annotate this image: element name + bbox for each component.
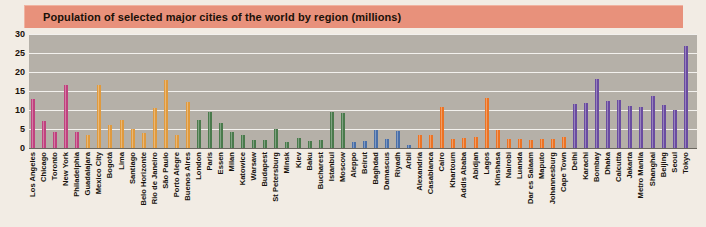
bar[interactable] bbox=[462, 138, 466, 148]
bar[interactable] bbox=[363, 141, 367, 148]
bar[interactable] bbox=[274, 129, 278, 148]
bar-highlight bbox=[220, 123, 221, 148]
bar[interactable] bbox=[474, 137, 478, 148]
x-axis-tick-label: Dhaka bbox=[604, 152, 612, 175]
bar[interactable] bbox=[374, 130, 378, 148]
bar[interactable] bbox=[341, 113, 345, 148]
bar[interactable] bbox=[75, 132, 79, 148]
x-axis-tick: Chicago bbox=[42, 150, 46, 227]
bar[interactable] bbox=[97, 85, 101, 148]
bar[interactable] bbox=[120, 120, 124, 149]
x-axis-tick-label: Cairo bbox=[439, 152, 447, 171]
x-axis-tick-label: New York bbox=[62, 152, 70, 186]
x-axis-tick-label: Mexico City bbox=[96, 152, 104, 194]
x-axis-tick-label: Santiago bbox=[129, 152, 137, 184]
bar[interactable] bbox=[529, 140, 533, 148]
bar[interactable] bbox=[385, 139, 389, 148]
bar[interactable] bbox=[285, 142, 289, 148]
bar[interactable] bbox=[319, 140, 323, 148]
bar[interactable] bbox=[628, 106, 632, 148]
bar[interactable] bbox=[418, 135, 422, 148]
bar[interactable] bbox=[606, 101, 610, 148]
bar[interactable] bbox=[540, 139, 544, 148]
x-axis-tick: Los Angeles bbox=[31, 150, 35, 227]
bar[interactable] bbox=[429, 135, 433, 148]
x-axis-tick-label: Istanbul bbox=[328, 152, 336, 181]
x-axis-tick-label: Damascus bbox=[383, 152, 391, 190]
bar[interactable] bbox=[451, 139, 455, 148]
bar[interactable] bbox=[518, 139, 522, 149]
bar-highlight bbox=[342, 113, 343, 148]
x-axis-tick-label: Khartoum bbox=[450, 152, 458, 188]
bar[interactable] bbox=[407, 145, 411, 148]
bar-highlight bbox=[574, 104, 575, 148]
bar[interactable] bbox=[252, 140, 256, 148]
bar-highlight bbox=[618, 100, 619, 148]
bar[interactable] bbox=[263, 140, 267, 148]
bar-highlight bbox=[552, 139, 553, 148]
bar[interactable] bbox=[86, 135, 90, 148]
y-axis-tick: 0 bbox=[20, 144, 25, 153]
bar-highlight bbox=[298, 138, 299, 148]
x-axis-tick: Shanghai bbox=[651, 150, 655, 227]
bar[interactable] bbox=[662, 105, 666, 148]
bar[interactable] bbox=[440, 107, 444, 148]
bar-highlight bbox=[652, 96, 653, 148]
x-axis-tick-label: Kiev bbox=[295, 152, 303, 168]
x-axis-tick: Alexandria bbox=[418, 150, 422, 227]
bar-highlight bbox=[419, 135, 420, 148]
bar[interactable] bbox=[241, 135, 245, 148]
bar[interactable] bbox=[31, 99, 35, 148]
bar[interactable] bbox=[639, 107, 643, 148]
bar[interactable] bbox=[651, 96, 655, 148]
bar-highlight bbox=[386, 139, 387, 148]
bar[interactable] bbox=[131, 129, 135, 148]
x-axis-tick-label: Katowice bbox=[239, 152, 247, 185]
bar[interactable] bbox=[142, 133, 146, 148]
bar[interactable] bbox=[485, 98, 489, 148]
bar[interactable] bbox=[297, 138, 301, 148]
bar[interactable] bbox=[197, 120, 201, 149]
bar[interactable] bbox=[208, 112, 212, 148]
y-axis-tick: 5 bbox=[20, 125, 25, 134]
bar[interactable] bbox=[108, 125, 112, 148]
bar[interactable] bbox=[507, 139, 511, 148]
bar[interactable] bbox=[396, 131, 400, 148]
x-axis-tick: New York bbox=[64, 150, 68, 227]
bar[interactable] bbox=[42, 121, 46, 148]
bar-highlight bbox=[596, 79, 597, 148]
bar[interactable] bbox=[186, 102, 190, 148]
bar[interactable] bbox=[617, 100, 621, 148]
bar[interactable] bbox=[352, 142, 356, 148]
bar[interactable] bbox=[230, 132, 234, 148]
x-axis-tick-label: Seoul bbox=[671, 152, 679, 173]
x-axis-tick: Kinshasa bbox=[496, 150, 500, 227]
bar[interactable] bbox=[673, 110, 677, 148]
x-axis-tick: Damascus bbox=[385, 150, 389, 227]
bar[interactable] bbox=[219, 123, 223, 148]
x-axis-tick-label: Bombay bbox=[593, 152, 601, 182]
bar[interactable] bbox=[175, 135, 179, 148]
x-axis-tick-label: Dar es Salaam bbox=[527, 152, 535, 204]
x-axis-tick-label: Minsk bbox=[284, 152, 292, 174]
x-axis-tick: Seoul bbox=[673, 150, 677, 227]
bar-highlight bbox=[364, 141, 365, 148]
bar[interactable] bbox=[562, 137, 566, 148]
bar[interactable] bbox=[573, 104, 577, 148]
bar[interactable] bbox=[308, 141, 312, 148]
bar[interactable] bbox=[551, 139, 555, 148]
x-axis-tick-label: Buenos Aires bbox=[184, 152, 192, 201]
bar[interactable] bbox=[595, 79, 599, 148]
x-axis-tick-label: Belo Horizonte bbox=[140, 152, 148, 206]
bar[interactable] bbox=[584, 103, 588, 148]
bar[interactable] bbox=[53, 132, 57, 148]
bar[interactable] bbox=[153, 108, 157, 148]
x-axis-tick: Lima bbox=[120, 150, 124, 227]
bar[interactable] bbox=[164, 80, 168, 148]
x-axis-tick: St Petersburg bbox=[274, 150, 278, 227]
bar[interactable] bbox=[64, 85, 68, 148]
y-axis-tick: 25 bbox=[15, 49, 25, 58]
bar[interactable] bbox=[496, 130, 500, 148]
bar[interactable] bbox=[330, 112, 334, 148]
bar[interactable] bbox=[684, 46, 688, 148]
